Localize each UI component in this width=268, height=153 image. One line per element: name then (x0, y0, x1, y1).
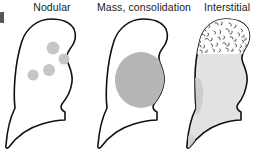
panel-label-mass: Mass, consolidation (96, 1, 192, 14)
panel-nodular: Nodular (4, 0, 100, 153)
lung-outline-icon (6, 19, 76, 148)
lung-diagram-interstitial (186, 14, 268, 153)
panel-label-nodular: Nodular (4, 1, 100, 14)
nodule (43, 64, 55, 76)
panel-mass: Mass, consolidation (96, 0, 192, 153)
lung-diagram-mass (96, 14, 192, 153)
lung-pattern-figure: Nodular Mass, consolidation (0, 0, 268, 153)
lung-diagram-nodular (4, 14, 100, 153)
nodule (28, 70, 39, 81)
panel-interstitial: Interstitial (186, 0, 268, 153)
mass-lesion (115, 52, 167, 108)
mass-group (115, 52, 167, 108)
panel-label-interstitial: Interstitial (204, 1, 250, 14)
nodule (59, 54, 70, 65)
nodule (47, 42, 60, 55)
